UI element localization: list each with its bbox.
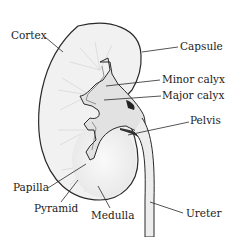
label-capsule: Capsule (180, 41, 223, 52)
label-major-calyx: Major calyx (162, 90, 224, 101)
label-cortex: Cortex (11, 30, 47, 41)
label-minor-calyx: Minor calyx (162, 74, 225, 85)
ureter-tube (134, 118, 154, 237)
label-pelvis: Pelvis (190, 115, 221, 126)
label-medulla: Medulla (91, 210, 134, 221)
label-ureter: Ureter (186, 208, 222, 219)
label-papilla: Papilla (13, 182, 49, 193)
label-pyramid: Pyramid (34, 203, 78, 214)
